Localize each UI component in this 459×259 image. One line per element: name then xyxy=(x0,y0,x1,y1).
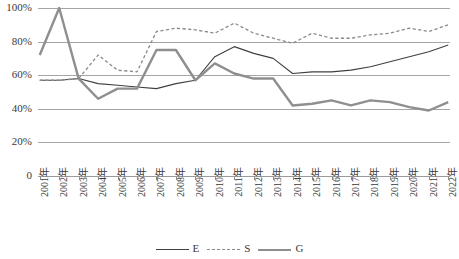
y-axis-tick-label: 20% xyxy=(0,136,32,147)
x-axis-tick-label: 2008年 xyxy=(176,167,186,197)
x-axis-tick-label: 2013年 xyxy=(273,167,283,197)
x-axis-tick-label: 2007年 xyxy=(156,167,166,197)
x-axis-tick-label: 2019年 xyxy=(390,167,400,197)
legend-item-e[interactable]: E xyxy=(156,243,200,254)
legend-swatch-e-icon xyxy=(156,244,189,254)
series-layer xyxy=(38,8,450,176)
x-axis-tick-label: 2002年 xyxy=(59,167,69,197)
x-axis-tick-label: 2018年 xyxy=(370,167,380,197)
line-chart: 100%80%60%40%20%0 2001年2002年2003年2004年20… xyxy=(0,0,459,259)
plot-area: 100%80%60%40%20%0 xyxy=(38,8,450,176)
x-axis-tick-label: 2015年 xyxy=(312,167,322,197)
x-axis-tick-label: 2021年 xyxy=(429,167,439,197)
x-axis-tick-label: 2011年 xyxy=(234,167,244,197)
x-axis: 2001年2002年2003年2004年2005年2006年2007年2008年… xyxy=(38,177,450,239)
y-axis-tick-label: 100% xyxy=(0,2,32,13)
x-axis-tick-label: 2006年 xyxy=(137,167,147,197)
x-axis-tick-label: 2003年 xyxy=(79,167,89,197)
legend-item-s[interactable]: S xyxy=(199,243,250,254)
legend-label: E xyxy=(193,243,200,254)
legend-swatch-g-icon xyxy=(258,244,291,254)
x-axis-tick-label: 2016年 xyxy=(332,167,342,197)
series-line-g xyxy=(40,8,449,110)
y-axis-tick-label: 60% xyxy=(0,69,32,80)
y-axis-tick-label: 40% xyxy=(0,103,32,114)
x-axis-tick-label: 2010年 xyxy=(215,167,225,197)
legend-item-g[interactable]: G xyxy=(250,243,303,254)
x-axis-tick-label: 2020年 xyxy=(409,167,419,197)
series-line-e xyxy=(40,45,449,89)
legend-label: G xyxy=(295,243,303,254)
y-axis-tick-label: 0 xyxy=(0,170,32,181)
x-axis-tick-label: 2009年 xyxy=(195,167,205,197)
x-axis-tick-label: 2004年 xyxy=(98,167,108,197)
x-axis-tick-label: 2012年 xyxy=(254,167,264,197)
x-axis-tick-label: 2022年 xyxy=(448,167,458,197)
x-axis-tick-label: 2001年 xyxy=(40,167,50,197)
x-axis-tick-label: 2005年 xyxy=(118,167,128,197)
chart-legend: ESG xyxy=(0,238,459,259)
y-axis-tick-label: 80% xyxy=(0,36,32,47)
x-axis-tick-label: 2014年 xyxy=(293,167,303,197)
legend-swatch-s-icon xyxy=(207,244,240,254)
x-axis-tick-label: 2017年 xyxy=(351,167,361,197)
series-line-s xyxy=(40,23,449,80)
